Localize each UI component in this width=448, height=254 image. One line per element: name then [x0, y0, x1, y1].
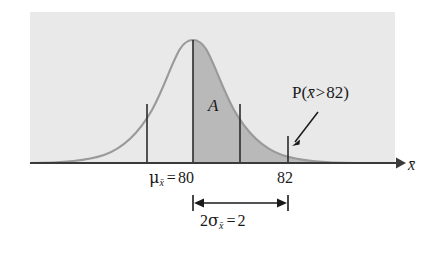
mu-value: 80 — [178, 169, 194, 186]
mu-equals: = — [164, 169, 178, 186]
span-arrowhead-right — [277, 199, 287, 208]
probability-operator: > — [315, 83, 327, 102]
area-label: A — [208, 97, 218, 114]
mean-axis-label: μx̄=80 — [149, 170, 194, 188]
sigma-coefficient: 2 — [200, 212, 208, 229]
mu-symbol: μ — [149, 168, 159, 187]
sigma-equals: = — [223, 212, 237, 229]
tick-label-82: 82 — [277, 170, 293, 186]
probability-variable: x̄ — [307, 83, 315, 102]
normal-distribution-figure: P(x̄>82) A μx̄=80 82 2σx̄=2 x̄ — [0, 0, 448, 254]
sigma-symbol: σ — [208, 211, 219, 230]
probability-callout-label: P(x̄>82) — [292, 84, 349, 101]
probability-value: 82 — [326, 83, 343, 102]
two-sigma-span-label: 2σx̄=2 — [200, 213, 245, 231]
probability-prefix: P( — [292, 83, 307, 102]
span-arrowhead-left — [194, 199, 204, 208]
sigma-value: 2 — [237, 212, 245, 229]
x-axis-arrowhead — [396, 158, 406, 169]
probability-suffix: ) — [343, 83, 349, 102]
x-axis-label: x̄ — [408, 157, 415, 173]
